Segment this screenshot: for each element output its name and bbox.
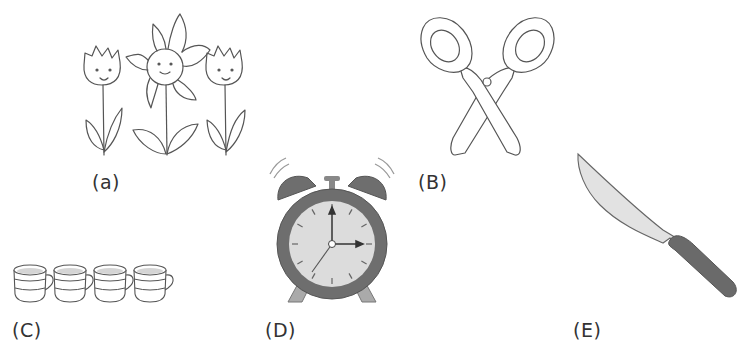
label-B: (B): [418, 171, 447, 193]
flowers-figure: [70, 0, 260, 170]
label-E: (E): [573, 319, 601, 341]
knife-figure: [575, 150, 745, 300]
cups-icon: [12, 262, 182, 304]
label-C: (C): [12, 319, 42, 341]
knife-icon: [575, 150, 745, 300]
scissors-figure: [415, 10, 560, 160]
alarm-clock-icon: [262, 152, 402, 312]
label-a: (a): [92, 171, 120, 193]
label-D: (D): [265, 319, 296, 341]
scissors-icon: [415, 10, 560, 160]
cups-figure: [12, 262, 182, 304]
alarm-clock-figure: [262, 152, 402, 312]
flowers-icon: [70, 0, 260, 170]
